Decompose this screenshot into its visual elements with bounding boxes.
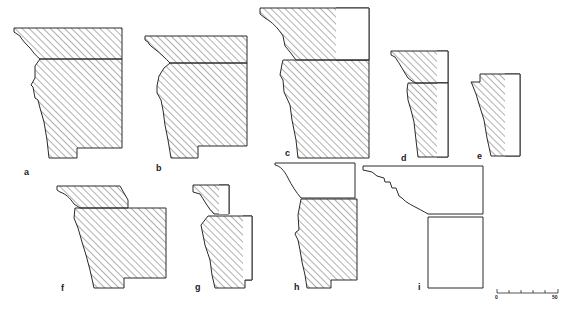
profile-a-upper-block — [14, 28, 122, 59]
profile-c-lower-block — [280, 60, 369, 158]
profile-h-label: h — [294, 282, 300, 292]
profile-h: h — [275, 163, 357, 292]
profile-b-lower-block — [157, 63, 247, 158]
profile-d: d — [391, 51, 448, 163]
profile-c: c — [260, 8, 369, 158]
profile-g: g — [193, 185, 252, 292]
profile-i-upper-block — [363, 166, 483, 214]
profile-i-lower-block — [428, 217, 483, 288]
profile-f: f — [57, 186, 166, 293]
profile-f-upper-block — [57, 186, 128, 208]
profile-f-label: f — [61, 283, 65, 293]
profile-a: a — [14, 28, 122, 177]
profile-g-label: g — [195, 282, 201, 292]
profile-b-label: b — [156, 163, 162, 173]
profile-b-upper-block — [145, 36, 247, 63]
scale-end-label: 50 — [552, 294, 558, 300]
profile-a-label: a — [24, 167, 30, 177]
profile-b: b — [145, 36, 247, 173]
profile-a-lower-block — [31, 59, 122, 158]
profile-f-lower-block — [74, 208, 166, 288]
scale-bar: 0 — [495, 289, 558, 300]
profile-e-label: e — [477, 151, 482, 161]
profile-i: i — [363, 166, 483, 292]
profile-i-label: i — [418, 282, 421, 292]
profile-e: e — [471, 74, 520, 161]
profile-d-label: d — [401, 153, 407, 163]
scale-start-label: 0 — [495, 294, 498, 300]
profiles-figure: a b c d e f — [0, 0, 576, 309]
profile-h-upper-block — [275, 163, 355, 198]
profile-h-lower-block — [295, 199, 357, 288]
profile-c-label: c — [285, 148, 290, 158]
